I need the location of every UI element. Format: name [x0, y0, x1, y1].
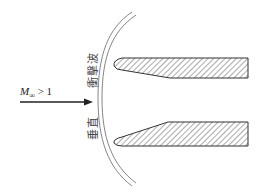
normal-shock-label: 垂直 衝擊波 — [84, 52, 98, 140]
upper-inlet-lip — [114, 58, 248, 78]
freestream-mach-label: M∞ > 1 — [20, 85, 52, 100]
lower-inlet-lip — [114, 122, 248, 146]
shock-wave-curve — [98, 12, 136, 186]
mach-symbol: M — [20, 85, 29, 97]
shock-label-part1: 垂直 — [84, 116, 98, 140]
mach-relation: > 1 — [35, 85, 52, 97]
shock-label-part2: 衝擊波 — [84, 52, 98, 88]
